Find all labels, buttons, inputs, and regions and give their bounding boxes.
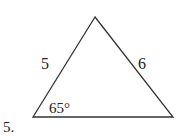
problem-number: 5. [3,120,14,135]
angle-label: 65° [49,101,70,116]
triangle-diagram [0,0,180,136]
side-right-length-label: 6 [138,56,146,72]
problem-figure: 5 6 65° 5. [0,0,180,136]
side-left-length-label: 5 [41,56,49,72]
